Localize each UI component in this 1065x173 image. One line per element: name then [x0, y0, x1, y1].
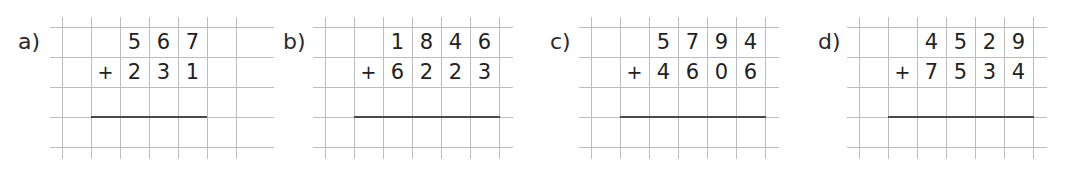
digit-cell: 4 [1004, 57, 1033, 87]
digit-cell: 5 [946, 57, 975, 87]
plus-sign: + [888, 57, 917, 87]
digit-cell: 5 [946, 27, 975, 57]
sum-line [888, 116, 1034, 118]
grid-line [888, 17, 889, 159]
grid-line [847, 87, 1047, 88]
digit-cell: 4 [917, 27, 946, 57]
math-grid: 4 5 2 9 + 7 5 3 4 [847, 17, 1065, 159]
grid-line [859, 17, 860, 159]
exercise-d: d) 4 5 2 9 + 7 5 3 4 [0, 0, 1065, 173]
digit-cell: 2 [975, 27, 1004, 57]
digit-cell: 3 [975, 57, 1004, 87]
digit-cell: 7 [917, 57, 946, 87]
exercise-label: d) [818, 28, 841, 56]
digit-cell: 9 [1004, 27, 1033, 57]
grid-line [1033, 17, 1034, 159]
grid-line [847, 147, 1047, 148]
